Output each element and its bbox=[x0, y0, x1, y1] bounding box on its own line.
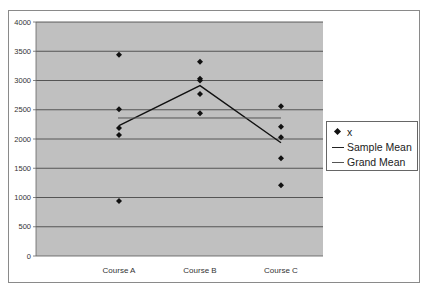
legend-label: Grand Mean bbox=[347, 156, 405, 168]
y-tick-label: 3500 bbox=[14, 47, 31, 56]
x-category-label: Course A bbox=[103, 266, 137, 275]
legend-label: x bbox=[347, 126, 352, 138]
y-tick-label: 2000 bbox=[14, 135, 31, 144]
legend: x Sample Mean Grand Mean bbox=[326, 121, 418, 171]
legend-label: Sample Mean bbox=[347, 141, 412, 153]
x-category-label: Course B bbox=[183, 266, 216, 275]
legend-item-x: x bbox=[331, 125, 352, 139]
y-tick-label: 1500 bbox=[14, 164, 31, 173]
y-tick-label: 500 bbox=[18, 222, 31, 231]
legend-item-grand-mean: Grand Mean bbox=[331, 155, 405, 169]
x-axis: Course ACourse BCourse C bbox=[103, 266, 299, 275]
y-tick-label: 1000 bbox=[14, 193, 31, 202]
y-tick-label: 2500 bbox=[14, 105, 31, 114]
y-tick-label: 0 bbox=[27, 252, 31, 261]
diamond-marker-icon bbox=[334, 128, 341, 135]
y-tick-label: 3000 bbox=[14, 76, 31, 85]
legend-item-sample-mean: Sample Mean bbox=[331, 140, 412, 154]
x-category-label: Course C bbox=[264, 266, 298, 275]
y-axis: 05001000150020002500300035004000 bbox=[14, 18, 36, 261]
line-marker-icon bbox=[332, 162, 344, 163]
y-tick-label: 4000 bbox=[14, 18, 31, 27]
line-marker-icon bbox=[332, 147, 344, 148]
